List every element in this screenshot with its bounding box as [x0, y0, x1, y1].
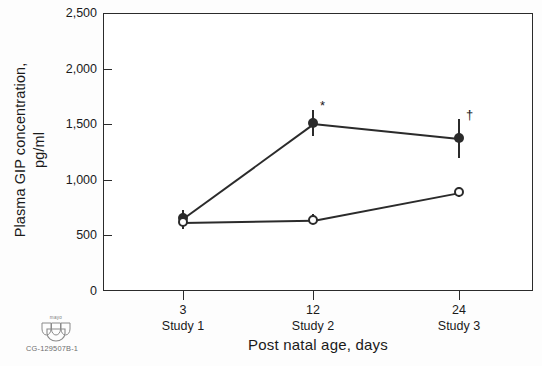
x-tick-label-12: 12 — [253, 303, 373, 318]
x-tickmark-12 — [313, 291, 314, 300]
x-tick-group-study-3: 24 Study 3 — [399, 303, 519, 335]
y-tickmark-1500 — [103, 124, 112, 125]
plot-area — [103, 13, 533, 291]
significance-annotation-24: † — [466, 108, 473, 121]
figure-container: Plasma GIP concentration, pg/ml 0 500 1,… — [0, 0, 542, 366]
footer-logo-block: mayo CG-129507B-1 — [26, 316, 126, 353]
y-tick-label-2500: 2,500 — [35, 7, 103, 19]
y-tick-label-0: 0 — [35, 285, 103, 297]
x-tick-sublabel-study-3: Study 3 — [399, 318, 519, 335]
y-tickmark-500 — [103, 235, 112, 236]
y-tick-label-500: 500 — [35, 229, 103, 241]
x-tick-group-study-2: 12 Study 2 — [253, 303, 373, 335]
datapoint-open-circle-12 — [308, 215, 318, 225]
x-tick-label-24: 24 — [399, 303, 519, 318]
y-axis-title-line2: pg/ml — [30, 63, 49, 238]
y-axis-title: Plasma GIP concentration, pg/ml — [0, 0, 60, 300]
y-tick-label-1500: 1,500 — [35, 118, 103, 130]
y-axis-title-line1: Plasma GIP concentration, — [12, 63, 28, 238]
datapoint-open-circle-3 — [178, 217, 188, 227]
x-tick-label-3: 3 — [123, 303, 243, 318]
x-tickmark-3 — [183, 291, 184, 300]
y-tickmark-2000 — [103, 69, 112, 70]
x-tickmark-24 — [459, 291, 460, 300]
x-tick-sublabel-study-2: Study 2 — [253, 318, 373, 335]
datapoint-open-circle-24 — [454, 187, 464, 197]
logo-wordmark: mayo — [38, 315, 74, 320]
x-tick-sublabel-study-1: Study 1 — [123, 318, 243, 335]
x-tick-group-study-1: 3 Study 1 — [123, 303, 243, 335]
significance-annotation-12: * — [320, 99, 325, 112]
mayo-clinic-shield-logo: mayo — [38, 316, 74, 342]
y-tick-label-1000: 1,000 — [35, 174, 103, 186]
y-tickmark-1000 — [103, 180, 112, 181]
y-tick-label-2000: 2,000 — [35, 63, 103, 75]
figure-code-label: CG-129507B-1 — [26, 344, 126, 353]
x-axis-title: Post natal age, days — [103, 336, 533, 353]
